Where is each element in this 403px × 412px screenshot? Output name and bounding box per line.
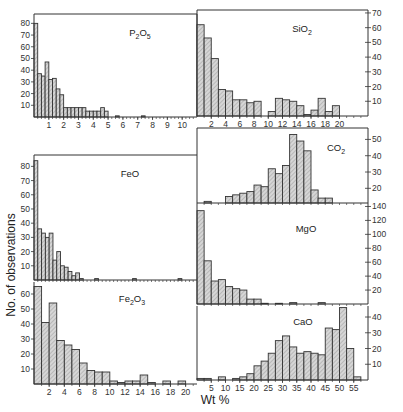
histogram-bar (261, 187, 268, 203)
histogram-bar (72, 350, 80, 385)
histogram-bar (311, 110, 318, 116)
y-tick-label: 40 (21, 319, 31, 329)
x-tick-label: 10 (177, 120, 187, 130)
panel-cao: 51015202530354045505510203040CaO (197, 306, 382, 393)
histogram-bar (95, 372, 103, 384)
histogram-bar (38, 229, 42, 280)
x-axis-title: Wt % (201, 393, 230, 407)
x-tick-label: 3 (76, 120, 81, 130)
histogram-bar (204, 261, 211, 304)
y-tick-label: 40 (21, 65, 31, 75)
histogram-bar (71, 108, 75, 117)
histogram-bar (64, 108, 68, 117)
x-tick-label: 2 (47, 387, 52, 397)
y-tick-label: 50 (21, 204, 31, 214)
histogram-bar (233, 100, 240, 116)
x-tick-label: 40 (306, 383, 316, 393)
histogram-bar (53, 260, 57, 280)
histogram-bar (42, 233, 46, 280)
y-tick-label: 50 (21, 304, 31, 314)
histogram-bar (240, 193, 247, 203)
histogram-bar (53, 78, 57, 117)
y-tick-label: 20 (372, 344, 382, 354)
histogram-bar (226, 196, 233, 203)
histogram-bar (311, 190, 318, 203)
histogram-bar (240, 100, 247, 116)
y-tick-label: 20 (21, 89, 31, 99)
panel-label: CaO (293, 316, 313, 327)
histogram-bar (283, 336, 290, 380)
y-tick-label: 40 (372, 52, 382, 62)
x-tick-label: 18 (166, 387, 176, 397)
histogram-bar (79, 363, 87, 384)
histogram-bar (197, 25, 204, 116)
x-tick-label: 4 (62, 387, 67, 397)
histogram-bar (64, 345, 72, 384)
histogram-bar (86, 111, 90, 117)
histogram-bar (34, 23, 38, 117)
histogram-bar (283, 100, 290, 116)
histogram-bar (93, 111, 97, 117)
histogram-bar (311, 353, 318, 380)
x-tick-label: 8 (92, 387, 97, 397)
histogram-figure: 123456789101020304050607080P2O5246810121… (0, 0, 403, 412)
histogram-bar (72, 276, 76, 280)
y-tick-label: 30 (21, 77, 31, 87)
x-tick-label: 16 (151, 387, 161, 397)
histogram-bar (325, 198, 332, 203)
y-tick-label: 40 (21, 218, 31, 228)
y-tick-label: 20 (372, 285, 382, 295)
histogram-bar (332, 106, 339, 116)
y-tick-label: 30 (372, 167, 382, 177)
histogram-bar (104, 111, 108, 117)
histogram-bar (275, 98, 282, 116)
y-tick-label: 20 (21, 349, 31, 359)
histogram-bar (297, 353, 304, 380)
x-tick-label: 20 (249, 383, 259, 393)
histogram-bar (101, 108, 105, 117)
histogram-bar (34, 161, 38, 280)
x-tick-label: 20 (181, 387, 191, 397)
y-tick-label: 140 (372, 201, 386, 211)
y-tick-label: 10 (21, 261, 31, 271)
histogram-bar (283, 166, 290, 204)
histogram-bar (78, 108, 82, 117)
histogram-bar (211, 59, 218, 116)
histogram-bar (247, 192, 254, 203)
y-tick-label: 10 (21, 364, 31, 374)
histogram-bar (64, 267, 68, 280)
histogram-bar (57, 341, 65, 385)
x-tick-label: 14 (135, 387, 145, 397)
x-tick-label: 50 (335, 383, 345, 393)
y-tick-label: 60 (21, 289, 31, 299)
y-tick-label: 70 (372, 8, 382, 18)
histogram-bar (275, 341, 282, 380)
histogram-bar (60, 95, 64, 117)
histogram-bar (254, 299, 261, 304)
histogram-bar (34, 287, 42, 385)
panel-label: MgO (296, 223, 317, 234)
histogram-bar (340, 308, 347, 380)
histogram-bar (49, 233, 53, 280)
histogram-bar (247, 374, 254, 380)
y-tick-label: 80 (21, 18, 31, 28)
panel-label: FeO (121, 168, 139, 179)
histogram-bar (254, 185, 261, 203)
histogram-bar (90, 111, 94, 117)
y-tick-label: 60 (21, 190, 31, 200)
histogram-bar (247, 103, 254, 116)
histogram-bar (325, 112, 332, 116)
x-tick-label: 35 (292, 383, 302, 393)
histogram-bar (197, 211, 204, 304)
y-tick-label: 30 (21, 334, 31, 344)
y-axis-title: No. of observations (4, 213, 18, 316)
y-tick-label: 80 (21, 161, 31, 171)
histogram-bar (76, 273, 80, 280)
y-tick-label: 50 (21, 53, 31, 63)
histogram-bar (240, 290, 247, 304)
histogram-bar (67, 108, 71, 117)
histogram-bar (204, 38, 211, 116)
panel-feo: 1020304050607080FeO (21, 155, 197, 282)
x-tick-label: 12 (120, 387, 130, 397)
x-tick-label: 4 (91, 120, 96, 130)
